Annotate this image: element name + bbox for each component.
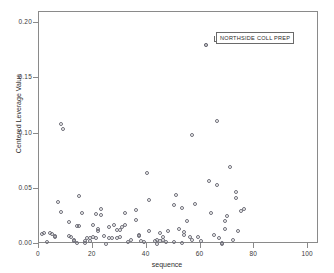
data-point[interactable] xyxy=(83,241,87,245)
x-axis-tick-label: 80 xyxy=(238,250,268,257)
data-point[interactable] xyxy=(215,183,219,187)
data-point[interactable] xyxy=(67,220,71,224)
data-point[interactable] xyxy=(61,127,65,131)
data-point[interactable] xyxy=(220,242,224,246)
data-point[interactable] xyxy=(123,223,127,227)
data-point[interactable] xyxy=(207,179,211,183)
data-point[interactable] xyxy=(94,236,98,240)
data-point[interactable] xyxy=(217,236,221,240)
y-axis-tick-label: 0.05 xyxy=(19,184,32,191)
data-point[interactable] xyxy=(107,225,111,229)
data-point[interactable] xyxy=(185,219,189,223)
data-point[interactable] xyxy=(91,223,95,227)
x-axis-tick xyxy=(307,243,308,248)
data-point[interactable] xyxy=(102,234,106,238)
data-point-highlighted[interactable] xyxy=(204,43,208,47)
x-axis-title: sequence xyxy=(0,261,334,268)
x-axis-tick xyxy=(200,243,201,248)
data-point[interactable] xyxy=(77,194,81,198)
data-point[interactable] xyxy=(242,207,246,211)
data-point[interactable] xyxy=(193,202,197,206)
data-point[interactable] xyxy=(145,171,149,175)
data-point[interactable] xyxy=(75,241,79,245)
data-point[interactable] xyxy=(42,231,46,235)
annotation-label-northside-coll-prep[interactable]: NORTHSIDE COLL PREP xyxy=(216,32,294,44)
x-axis-tick xyxy=(92,243,93,248)
data-point[interactable] xyxy=(134,208,138,212)
data-point[interactable] xyxy=(104,242,108,246)
data-point[interactable] xyxy=(215,119,219,123)
data-point[interactable] xyxy=(59,122,63,126)
data-point[interactable] xyxy=(77,224,81,228)
data-point[interactable] xyxy=(172,240,176,244)
data-point[interactable] xyxy=(223,227,227,231)
x-axis-tick-label: 20 xyxy=(77,250,107,257)
chart-screenshot: 0.000.050.100.150.20 020406080100 NORTHS… xyxy=(0,0,334,273)
y-axis-tick-label: 0.00 xyxy=(19,239,32,246)
scatter-plot-area xyxy=(39,12,317,242)
data-point[interactable] xyxy=(94,212,98,216)
data-point[interactable] xyxy=(134,218,138,222)
x-axis-tick xyxy=(253,243,254,248)
data-point[interactable] xyxy=(147,198,151,202)
data-point[interactable] xyxy=(174,193,178,197)
data-point[interactable] xyxy=(158,231,162,235)
data-point[interactable] xyxy=(190,133,194,137)
y-axis-tick-label: 0.20 xyxy=(19,18,32,25)
data-point[interactable] xyxy=(209,211,213,215)
data-point[interactable] xyxy=(99,207,103,211)
x-axis-tick-label: 60 xyxy=(185,250,215,257)
y-axis-title: Centered Leverage Value xyxy=(15,44,22,184)
data-point[interactable] xyxy=(142,240,146,244)
x-axis-tick-label: 100 xyxy=(292,250,322,257)
data-point[interactable] xyxy=(231,238,235,242)
x-axis-tick xyxy=(146,243,147,248)
data-point[interactable] xyxy=(112,223,116,227)
data-point[interactable] xyxy=(166,229,170,233)
data-point[interactable] xyxy=(212,233,216,237)
data-point[interactable] xyxy=(190,238,194,242)
data-point[interactable] xyxy=(80,211,84,215)
data-point[interactable] xyxy=(236,229,240,233)
data-point[interactable] xyxy=(180,241,184,245)
data-point[interactable] xyxy=(228,165,232,169)
data-point[interactable] xyxy=(59,210,63,214)
data-point[interactable] xyxy=(88,239,92,243)
plot-frame xyxy=(38,11,318,243)
data-point[interactable] xyxy=(129,238,133,242)
data-point[interactable] xyxy=(110,236,114,240)
data-point[interactable] xyxy=(118,235,122,239)
data-point[interactable] xyxy=(99,213,103,217)
data-point[interactable] xyxy=(56,200,60,204)
data-point[interactable] xyxy=(225,214,229,218)
data-point[interactable] xyxy=(96,229,100,233)
data-point[interactable] xyxy=(182,233,186,237)
data-point[interactable] xyxy=(164,240,168,244)
data-point[interactable] xyxy=(223,219,227,223)
data-point[interactable] xyxy=(172,203,176,207)
data-point[interactable] xyxy=(234,190,238,194)
data-point[interactable] xyxy=(180,206,184,210)
x-axis-tick-label: 40 xyxy=(131,250,161,257)
data-point[interactable] xyxy=(137,234,141,238)
data-point[interactable] xyxy=(147,229,151,233)
data-point[interactable] xyxy=(234,196,238,200)
x-axis-tick-label: 0 xyxy=(23,250,53,257)
data-point[interactable] xyxy=(45,240,49,244)
data-point[interactable] xyxy=(123,211,127,215)
data-point[interactable] xyxy=(199,239,203,243)
x-axis-tick xyxy=(38,243,39,248)
data-point[interactable] xyxy=(177,227,181,231)
